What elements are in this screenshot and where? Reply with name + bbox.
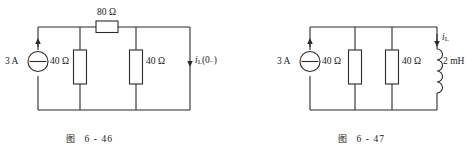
figure-caption-left: 图6 - 46 bbox=[66, 132, 113, 145]
source-arrow-head bbox=[35, 38, 41, 44]
resistor-40-ohm-right bbox=[130, 50, 143, 84]
resistor-80-ohm bbox=[96, 21, 118, 33]
resistor-40-ohm-left bbox=[74, 50, 87, 84]
label-resistor-40-ohm-right: 40 Ω bbox=[146, 57, 165, 67]
resistor-40-ohm-right-r bbox=[386, 50, 399, 84]
label-resistor-40-ohm-right-r: 40 Ω bbox=[402, 57, 421, 67]
label-inductor-2mh: 2 mH bbox=[443, 57, 464, 67]
caption-cn-left: 图 bbox=[66, 134, 75, 144]
current-arrow-head-left-fig bbox=[187, 61, 192, 67]
label-current-il-0minus: iL(0−) bbox=[195, 56, 217, 66]
caption-number-left: 6 - 46 bbox=[84, 134, 113, 144]
figure-6-47: 3 A 40 Ω 40 Ω 2 mH iL 图6 - 47 bbox=[235, 0, 475, 156]
label-resistor-40-ohm-left-r: 40 Ω bbox=[322, 57, 341, 67]
figure-caption-right: 图6 - 47 bbox=[338, 132, 385, 145]
caption-number-right: 6 - 47 bbox=[356, 134, 385, 144]
label-resistor-80-ohm: 80 Ω bbox=[97, 8, 116, 18]
label-resistor-40-ohm-left: 40 Ω bbox=[50, 57, 69, 67]
resistor-40-ohm-left-r bbox=[349, 50, 362, 84]
diagram-canvas: 3 A 40 Ω 40 Ω 80 Ω iL(0−) 图6 - 46 bbox=[0, 0, 475, 156]
current-arrow-head-right-fig bbox=[434, 41, 440, 47]
circuit-schematic-left bbox=[0, 0, 240, 156]
label-source-3a-left: 3 A bbox=[5, 57, 18, 67]
source-arrow-head-r bbox=[307, 38, 313, 44]
label-source-3a-right: 3 A bbox=[277, 57, 290, 67]
figure-6-46: 3 A 40 Ω 40 Ω 80 Ω iL(0−) 图6 - 46 bbox=[0, 0, 240, 156]
label-current-il-right: iL bbox=[442, 33, 449, 43]
caption-cn-right: 图 bbox=[338, 134, 347, 144]
inductor-2mh-coil bbox=[437, 49, 443, 93]
